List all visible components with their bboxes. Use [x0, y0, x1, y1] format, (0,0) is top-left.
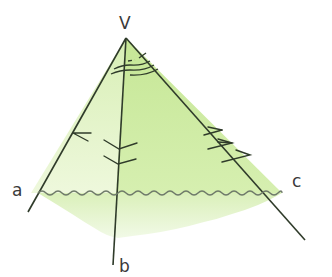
trihedral-angle-diagram: V a b c: [0, 0, 332, 277]
face-lower-fade: [38, 193, 282, 238]
vertex-label-v: V: [119, 13, 131, 33]
edge-label-c: c: [292, 171, 301, 191]
edge-label-a: a: [12, 180, 22, 200]
face-bc: [116, 38, 282, 193]
edge-label-b: b: [119, 256, 130, 276]
face-ab: [31, 38, 126, 193]
